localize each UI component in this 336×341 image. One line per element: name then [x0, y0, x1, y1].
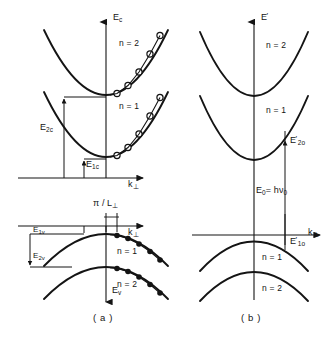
panel-a-conduction-k-axis-label: k⊥	[128, 180, 139, 189]
panel-b-label-e1o: E′1o	[290, 237, 305, 246]
panel-b-k-axis-label: k⊥	[308, 228, 319, 237]
panel-a-label-quantization-spacing: π / L⊥	[93, 199, 118, 208]
panel-a-subband-label-n1-conduction: n = 1	[119, 101, 139, 111]
figure-canvas	[0, 0, 336, 341]
panel-b-caption: ( b )	[241, 312, 261, 323]
panel-b-label-e0-transition: E0= hν0	[256, 186, 287, 195]
panel-a-label-e1v: E1v	[33, 226, 45, 234]
panel-a-energy-axis-label: Ec	[113, 13, 122, 22]
panel-a-label-e2c: E2c	[40, 123, 53, 132]
panel-b-subband-label-n1-lower: n = 1	[262, 252, 282, 262]
panel-b-subband-label-n1-upper: n = 1	[266, 105, 286, 115]
panel-a-valence-energy-axis-label: Ev	[112, 286, 121, 295]
panel-b-energy-axis-label: E′	[261, 13, 269, 22]
panel-b-subband-label-n2-upper: n = 2	[266, 40, 286, 50]
panel-a-caption: ( a )	[93, 312, 113, 323]
panel-a-subband-label-n2-conduction: n = 2	[119, 38, 139, 48]
panel-a-conduction	[18, 22, 168, 178]
figure-root: Ec n = 2 n = 1 E2c E1c k⊥ π / L⊥ E1v E2v…	[0, 0, 336, 341]
panel-a-label-e1c: E1c	[86, 160, 99, 169]
panel-a-subband-label-n1-valence: n = 1	[117, 246, 137, 256]
panel-b-subband-label-n2-lower: n = 2	[262, 283, 282, 293]
panel-a-label-e2v: E2v	[33, 252, 45, 260]
panel-b	[192, 22, 320, 301]
panel-b-label-e2o: E′2o	[290, 136, 305, 145]
panel-a-valence-k-axis-label: k⊥	[128, 228, 139, 237]
